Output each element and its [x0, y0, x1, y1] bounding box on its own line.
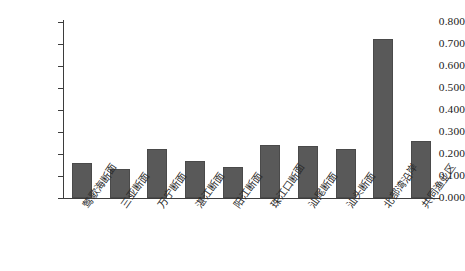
chart-figure: 0.0000.1000.2000.3000.4000.5000.6000.700… — [0, 0, 465, 271]
bar — [373, 39, 393, 197]
plot-area: 0.0000.1000.2000.3000.4000.5000.6000.700… — [0, 0, 465, 271]
x-axis-category-labels: 莺歌海断面三亚断面万宁断面湛江断面阳江断面珠江口断面汕尾断面汕头断面北部湾沿岸共… — [63, 198, 440, 271]
